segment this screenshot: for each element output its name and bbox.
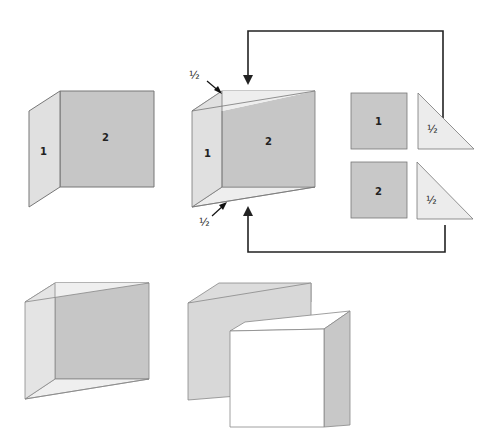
face-2-label: 2 <box>102 132 109 143</box>
cube-side <box>324 311 350 427</box>
cube-front <box>230 329 324 427</box>
face-1-label: 1 <box>204 148 211 159</box>
triangle-top-label: ½ <box>427 123 438 136</box>
triangle-bottom-label: ½ <box>426 194 437 207</box>
triangle-piece-bottom <box>417 162 473 219</box>
figure-prism-unlabeled <box>25 283 149 399</box>
square-1-label: 1 <box>375 116 382 127</box>
figure-prism-and-cube <box>188 283 350 427</box>
figure-prism-labeled: 1 2 ½ ½ <box>189 69 315 229</box>
top-half-label: ½ <box>189 69 200 82</box>
figure-open-faces: 1 2 <box>29 91 154 207</box>
bottom-arrow-path <box>248 214 445 252</box>
pieces: 1 ½ 2 ½ <box>351 93 474 219</box>
face-1-label: 1 <box>40 146 47 157</box>
face-2-label: 2 <box>265 136 272 147</box>
triangle-piece-top <box>418 93 474 149</box>
square-2-label: 2 <box>375 186 382 197</box>
bottom-half-label: ½ <box>199 216 210 229</box>
arrow-down-icon <box>243 75 253 85</box>
arrow-up-icon <box>243 206 253 216</box>
prism-diagram: 1 2 1 2 ½ ½ 1 ½ 2 ½ <box>0 0 498 442</box>
